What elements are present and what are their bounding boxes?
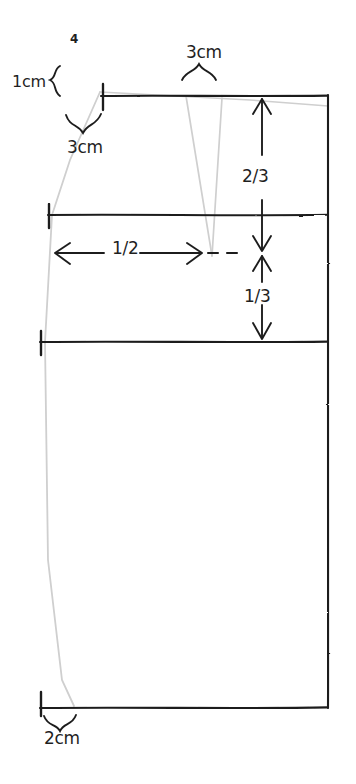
brace-dart-three-cm [182, 64, 216, 80]
dart-shape [186, 96, 222, 256]
label-upper-division: 2/3 [242, 168, 268, 185]
construction-lines [45, 92, 328, 706]
block-outline [40, 84, 328, 716]
label-piece-number: 4 [70, 33, 78, 45]
brace-one-cm [50, 66, 60, 96]
label-shoulder-slope: 1cm [12, 74, 46, 90]
label-lower-division: 1/3 [244, 288, 270, 305]
label-hem-extension: 2cm [44, 730, 80, 747]
pattern-diagram-canvas [0, 0, 356, 784]
label-dart-width: 3cm [186, 44, 222, 61]
label-half-width: 1/2 [112, 240, 138, 257]
label-neck-width: 3cm [67, 139, 103, 156]
